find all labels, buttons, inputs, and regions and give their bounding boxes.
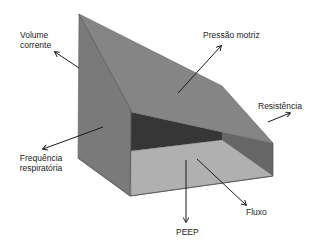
flow-label: Fluxo — [246, 207, 267, 217]
frequency-label: Frequência respiratória — [12, 153, 70, 173]
volume-label-line1: Volume — [20, 30, 51, 40]
pressure-label: Pressão motriz — [203, 30, 260, 40]
frequency-label-line2: respiratória — [12, 163, 70, 173]
resistance-arrow — [268, 113, 290, 122]
peep-label: PEEP — [176, 227, 199, 237]
volume-label-line2: corrente — [20, 40, 51, 50]
resistance-label: Resistência — [258, 101, 302, 111]
frequency-label-line1: Frequência — [12, 153, 70, 163]
volume-arrow — [55, 52, 79, 68]
volume-label: Volume corrente — [20, 30, 51, 50]
